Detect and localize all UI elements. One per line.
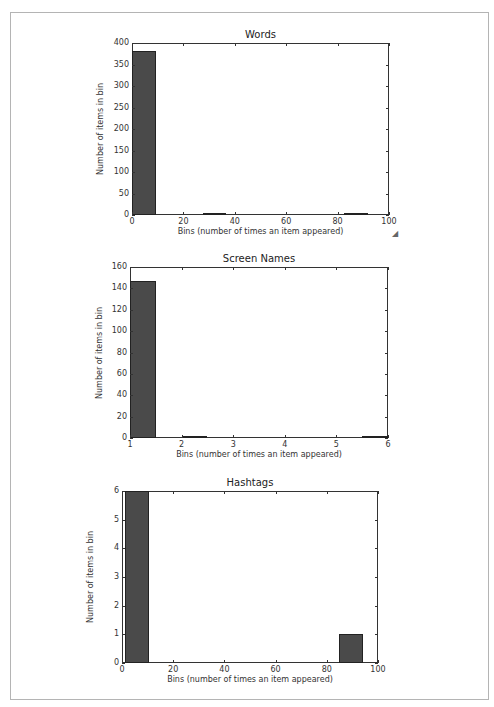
tick-mark [130,374,133,375]
tick-mark [122,634,125,635]
tick-mark [130,417,133,418]
tick-mark [224,660,225,663]
plot-area [130,267,388,438]
tick-mark [385,288,388,289]
tick-mark [389,212,390,215]
y-tick-label: 3 [95,572,119,581]
y-tick-label: 120 [103,305,127,314]
y-tick-label: 1 [95,629,119,638]
tick-mark [276,491,277,494]
tick-mark [375,520,378,521]
tick-mark [130,438,133,439]
tick-mark [235,212,236,215]
tick-mark [378,491,379,494]
tick-mark [130,435,131,438]
chart-title: Screen Names [130,253,388,264]
tick-mark [173,491,174,494]
tick-mark [132,151,135,152]
x-tick-label: 80 [315,665,339,674]
tick-mark [286,212,287,215]
resize-handle-icon[interactable]: ◢ [392,229,398,238]
x-tick-label: 100 [377,217,401,226]
x-axis-label: Bins (number of times an item appeared) [130,450,388,459]
x-tick-label: 60 [274,217,298,226]
tick-mark [327,660,328,663]
tick-mark [183,43,184,46]
x-tick-label: 6 [376,440,400,449]
y-tick-label: 200 [105,124,129,133]
tick-mark [385,438,388,439]
x-tick-label: 4 [273,440,297,449]
tick-mark [385,395,388,396]
tick-mark [385,374,388,375]
tick-mark [327,491,328,494]
tick-mark [173,660,174,663]
histogram-bar [125,491,149,663]
tick-mark [122,520,125,521]
y-axis-label: Number of items in bin [94,267,104,438]
tick-mark [235,43,236,46]
tick-mark [276,660,277,663]
histogram-bar [182,436,208,438]
tick-mark [285,435,286,438]
tick-mark [233,435,234,438]
y-axis-label: Number of items in bin [96,43,106,215]
x-tick-label: 0 [110,665,134,674]
y-tick-label: 2 [95,601,119,610]
chart-title: Words [132,29,389,40]
y-tick-label: 300 [105,81,129,90]
tick-mark [130,267,131,270]
x-tick-label: 3 [221,440,245,449]
tick-mark [375,606,378,607]
tick-mark [375,634,378,635]
y-tick-label: 80 [103,348,127,357]
tick-mark [132,172,135,173]
chart-title: Hashtags [122,477,378,488]
tick-mark [122,663,125,664]
x-tick-label: 0 [120,217,144,226]
tick-mark [224,491,225,494]
tick-mark [385,417,388,418]
tick-mark [386,215,389,216]
tick-mark [130,395,133,396]
tick-mark [182,435,183,438]
y-tick-label: 250 [105,103,129,112]
x-tick-label: 80 [326,217,350,226]
histogram-bar [203,213,227,215]
histogram-bar [130,281,156,438]
tick-mark [388,267,389,270]
tick-mark [388,435,389,438]
tick-mark [338,43,339,46]
y-tick-label: 60 [103,369,127,378]
tick-mark [130,288,133,289]
tick-mark [132,215,135,216]
tick-mark [132,108,135,109]
plot-area [132,43,389,215]
tick-mark [130,331,133,332]
tick-mark [336,435,337,438]
tick-mark [389,43,390,46]
y-tick-label: 100 [103,326,127,335]
y-tick-label: 160 [103,262,127,271]
y-tick-label: 50 [105,189,129,198]
tick-mark [122,548,125,549]
tick-mark [132,86,135,87]
tick-mark [375,663,378,664]
tick-mark [375,577,378,578]
tick-mark [385,331,388,332]
x-tick-label: 60 [264,665,288,674]
tick-mark [132,194,135,195]
tick-mark [182,267,183,270]
tick-mark [378,660,379,663]
y-tick-label: 40 [103,390,127,399]
tick-mark [386,86,389,87]
x-tick-label: 100 [366,665,390,674]
tick-mark [385,310,388,311]
x-tick-label: 20 [171,217,195,226]
tick-mark [386,108,389,109]
tick-mark [386,65,389,66]
tick-mark [285,267,286,270]
tick-mark [338,212,339,215]
tick-mark [386,129,389,130]
tick-mark [122,606,125,607]
